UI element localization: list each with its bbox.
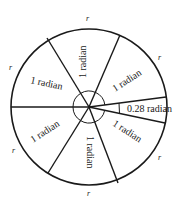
sector-label-upper-left: 1 radian [30,74,64,92]
radius-upper-right [89,35,120,107]
radius-lower-left [48,107,89,173]
sector-label-upper-right: 1 radian [110,67,143,94]
radian-diagram: 1 radian 1 radian 1 radian 1 radian 1 ra… [0,0,189,203]
angle-arc-top [81,91,96,93]
remainder-label: 0.28 radian [127,103,172,114]
arc-label-lower-left: r [12,146,16,155]
sector-label-lower-right: 1 radian [111,117,144,144]
angle-arc-bottom [81,121,95,123]
angle-arc-lower-left [73,107,81,121]
arc-label-upper-left: r [9,63,13,72]
sector-label-bottom: 1 radian [85,136,96,169]
arc-label-upper-right: r [158,53,162,62]
arc-label-bottom: r [87,189,91,198]
arc-label-top: r [86,14,90,23]
arc-label-lower-right: r [158,153,162,162]
angle-arc-lower-right [95,110,105,122]
angle-arc-upper-right [96,93,105,105]
sector-label-lower-left: 1 radian [28,118,61,145]
angle-arc-upper-left [73,93,81,107]
remainder-angle-marker [119,103,120,114]
sector-label-top: 1 radian [77,46,88,79]
